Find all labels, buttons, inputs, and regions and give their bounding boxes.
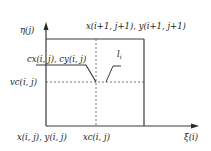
- interface-line: [106, 66, 121, 82]
- top-right-corner-label: x(i+1, j+1), y(i+1, j+1): [86, 21, 186, 31]
- center-profile-line: [36, 65, 96, 82]
- vc-label: vc(i, j): [10, 77, 37, 87]
- bottom-left-corner-label: x(i, j), y(i, j): [17, 132, 67, 142]
- grid-cell-diagram: η(j) ξ(i) x(i+1, j+1), y(i+1, j+1) x(i, …: [0, 0, 211, 151]
- center-point-label: cx(i, j), cy(i, j): [27, 54, 86, 64]
- interface-line-label-subscript: i: [120, 53, 122, 60]
- y-axis-label: η(j): [20, 25, 34, 35]
- y-axis-arrow-icon: [44, 22, 49, 30]
- x-axis-label: ξ(i): [184, 132, 198, 142]
- xc-label: xc(i, j): [83, 132, 110, 142]
- interface-line-label: li: [117, 49, 122, 60]
- x-axis-arrow-icon: [191, 124, 199, 129]
